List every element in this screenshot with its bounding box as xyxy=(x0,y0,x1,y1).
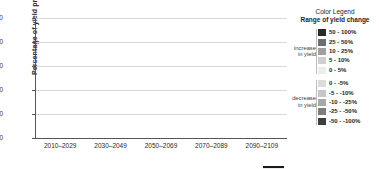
legend-title: Color Legend xyxy=(292,8,378,16)
y-tick-mark xyxy=(32,138,35,139)
legend-item-label: -5 - -10% xyxy=(329,90,354,97)
legend-swatch xyxy=(318,67,326,74)
legend-swatch xyxy=(318,99,326,106)
legend-item[interactable]: 0 - -5% xyxy=(318,79,378,88)
y-tick-label: 0 xyxy=(0,135,3,142)
legend-side-label-increase-line1: increase xyxy=(290,45,316,52)
legend-item[interactable]: -10 - -25% xyxy=(318,98,378,107)
y-tick-label: 100 xyxy=(0,15,3,22)
bar-group xyxy=(237,18,287,138)
legend-group-decrease: decrease in yield 0 - -5%-5 - -10%-10 - … xyxy=(292,79,378,126)
bar-cap xyxy=(263,166,284,168)
bar-group xyxy=(35,18,85,138)
legend-side-label-decrease-line1: decrease xyxy=(290,95,316,102)
y-tick-label: 40 xyxy=(0,87,3,94)
bar-group xyxy=(85,18,135,138)
legend-item-label: 0 - -5% xyxy=(329,80,348,87)
legend-item[interactable]: 50 - 100% xyxy=(318,28,378,37)
legend-item[interactable]: -25 - -50% xyxy=(318,107,378,116)
legend-item-label: 10 - 25% xyxy=(329,48,353,55)
chart-figure: Percentage of yield projections 02040608… xyxy=(0,0,379,169)
legend-side-label-decrease: decrease in yield xyxy=(290,95,316,108)
legend-item[interactable]: -5 - -10% xyxy=(318,88,378,97)
legend-item-label: 0 - 5% xyxy=(329,67,346,74)
legend-item-label: 50 - 100% xyxy=(329,29,356,36)
legend-item-label: 5 - 10% xyxy=(329,57,350,64)
legend-item-label: 25 - 50% xyxy=(329,39,353,46)
legend-swatch xyxy=(318,90,326,97)
legend-side-label-increase: increase in yield xyxy=(290,45,316,58)
legend-bracket-increase xyxy=(316,29,317,74)
legend-swatch xyxy=(318,29,326,36)
legend-side-label-decrease-line2: in yield xyxy=(290,102,316,109)
legend-bracket-decrease xyxy=(316,80,317,125)
legend-item-label: -10 - -25% xyxy=(329,99,357,106)
legend-swatch xyxy=(318,108,326,115)
legend-item[interactable]: 5 - 10% xyxy=(318,56,378,65)
legend-item[interactable]: -50 - -100% xyxy=(318,117,378,126)
x-tick-label: 2090–2109 xyxy=(227,142,297,149)
legend: Color Legend Range of yield change incre… xyxy=(292,8,378,126)
legend-side-label-increase-line2: in yield xyxy=(290,51,316,58)
legend-swatch xyxy=(318,57,326,64)
legend-item[interactable]: 0 - 5% xyxy=(318,66,378,75)
y-tick-label: 80 xyxy=(0,39,3,46)
y-tick-label: 60 xyxy=(0,63,3,70)
y-tick-label: 20 xyxy=(0,111,3,118)
plot-area: 0204060801002010–20292030–20492050–20692… xyxy=(35,18,287,138)
legend-item-label: -25 - -50% xyxy=(329,108,357,115)
legend-swatch xyxy=(318,39,326,46)
legend-item[interactable]: 25 - 50% xyxy=(318,37,378,46)
x-axis-line xyxy=(35,138,287,139)
bar-group xyxy=(186,18,236,138)
bar-group xyxy=(136,18,186,138)
legend-subtitle: Range of yield change xyxy=(292,16,378,24)
legend-item-label: -50 - -100% xyxy=(329,118,360,125)
legend-group-increase: increase in yield 50 - 100%25 - 50%10 - … xyxy=(292,28,378,75)
legend-swatch xyxy=(318,80,326,87)
legend-item[interactable]: 10 - 25% xyxy=(318,47,378,56)
legend-swatch xyxy=(318,118,326,125)
legend-swatch xyxy=(318,48,326,55)
